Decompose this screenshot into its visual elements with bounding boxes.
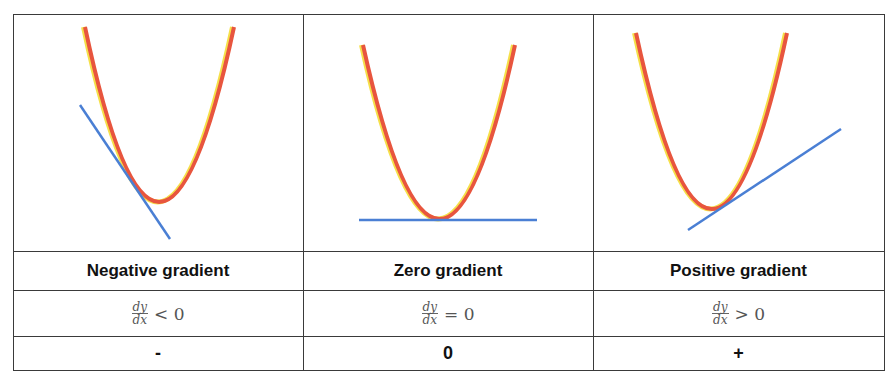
- plot-zero: [359, 45, 537, 220]
- tangent-line: [688, 129, 841, 230]
- parabola-curve: [85, 27, 234, 202]
- tangent-line: [80, 105, 170, 239]
- plot-negative: [80, 27, 234, 239]
- parabola-curve: [363, 45, 515, 219]
- gradient-plots: [0, 0, 895, 383]
- plot-positive: [635, 33, 842, 230]
- parabola-curve: [636, 33, 787, 209]
